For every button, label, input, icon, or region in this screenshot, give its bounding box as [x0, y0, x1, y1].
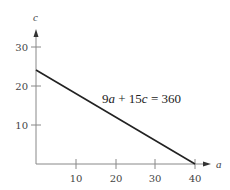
chart: c a 10 20 30 10 20 30 40 9a + 15c = 360 [0, 0, 230, 190]
x-ticks: 10 20 30 40 [70, 159, 202, 184]
x-tick-label: 40 [189, 173, 202, 184]
eq-rhs: = 360 [148, 91, 181, 106]
x-tick-label: 30 [149, 173, 162, 184]
constraint-line [36, 70, 195, 164]
y-tick-label: 10 [15, 120, 28, 131]
y-tick-label: 20 [15, 81, 28, 92]
x-tick-label: 10 [70, 173, 83, 184]
y-ticks: 10 20 30 [15, 42, 41, 131]
y-axis-label: c [33, 11, 38, 23]
y-tick-label: 30 [15, 42, 28, 53]
x-tick-label: 20 [110, 173, 123, 184]
eq-plus: + 15 [115, 91, 142, 106]
x-axis-arrow-icon [203, 162, 211, 167]
x-axis-label: a [216, 158, 222, 170]
equation-label: 9a + 15c = 360 [102, 91, 181, 106]
y-axis-arrow-icon [34, 29, 39, 37]
